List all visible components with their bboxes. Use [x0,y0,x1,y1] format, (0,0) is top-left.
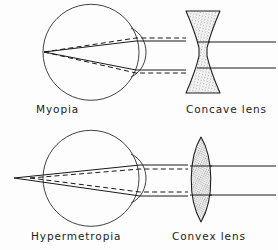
caption-concave-lens: Concave lens [186,103,267,115]
caption-convex-lens: Convex lens [172,230,246,242]
caption-myopia: Myopia [36,103,79,115]
optics-diagram-figure: Myopia Concave lens [0,0,278,250]
optics-diagram-svg: Myopia Concave lens [0,0,278,250]
caption-hypermetropia: Hypermetropia [31,230,121,242]
figure-background [0,0,278,250]
